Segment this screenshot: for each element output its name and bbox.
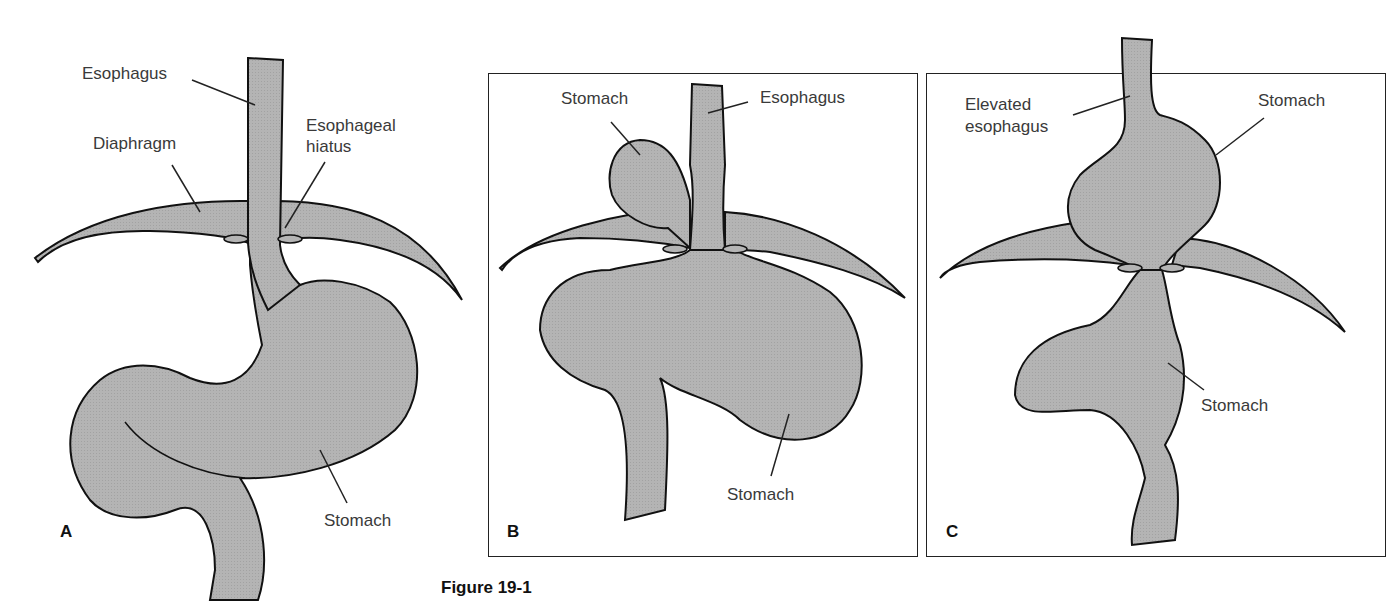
panel-letter-c: C [946,522,958,542]
diaphragm-left [35,201,248,262]
label-hiatus-a-2: hiatus [306,136,351,157]
label-diaphragm-a: Diaphragm [93,133,176,154]
label-elevated-esophagus-2: esophagus [965,116,1048,137]
label-hiatus-a-1: Esophageal [306,115,396,136]
label-stomach-b-bottom: Stomach [727,484,794,505]
stomach-c-upper [1068,38,1220,270]
label-elevated-esophagus-1: Elevated [965,94,1031,115]
esophagus-a [248,58,300,310]
figure-caption: Figure 19-1 [441,578,532,598]
label-esophagus-a: Esophagus [82,63,167,84]
label-stomach-c-top: Stomach [1258,90,1325,111]
panel-letter-a: A [60,522,72,542]
panel-letter-b: B [507,522,519,542]
stomach-b [540,250,862,520]
panel-b-illustration [500,84,905,520]
label-stomach-c-bottom: Stomach [1201,395,1268,416]
stomach-a [70,240,417,600]
label-stomach-a: Stomach [324,510,391,531]
diaphragm-c-right [1172,238,1345,332]
label-esophagus-b: Esophagus [760,87,845,108]
stomach-c-lower [1015,270,1184,545]
label-stomach-b-top: Stomach [561,88,628,109]
esophagus-b [690,84,725,250]
